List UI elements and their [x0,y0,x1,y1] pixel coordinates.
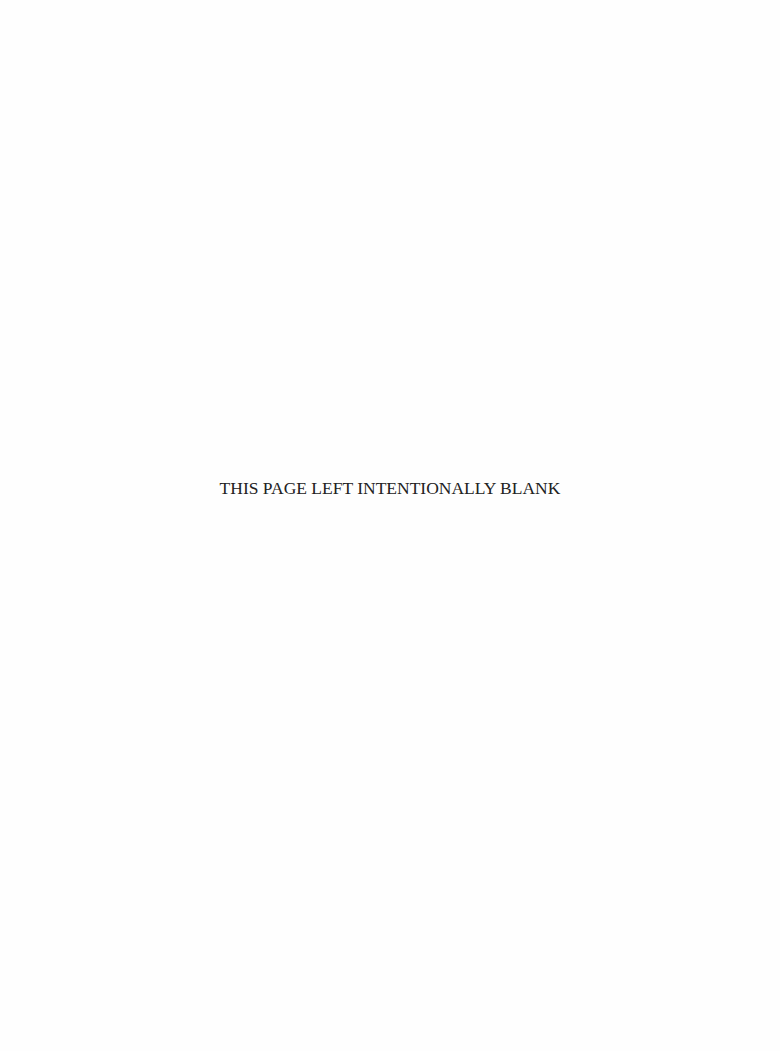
blank-page-notice: THIS PAGE LEFT INTENTIONALLY BLANK [0,478,780,498]
document-page: THIS PAGE LEFT INTENTIONALLY BLANK [0,0,780,1051]
